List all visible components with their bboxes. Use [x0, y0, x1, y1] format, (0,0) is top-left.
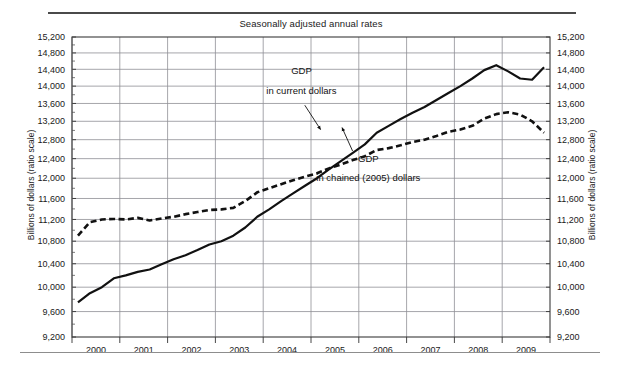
y-axis-label-right: 14,800	[557, 48, 585, 58]
gdp-chained-dollars-annotation-line2: in chained (2005) dollars	[316, 172, 420, 183]
x-axis-label: 2000	[86, 345, 106, 355]
y-axis-label-right: 10,800	[557, 236, 585, 246]
y-axis-label-left: 11,600	[38, 194, 65, 204]
y-axis-label-left: 14,800	[37, 48, 65, 58]
y-axis-label-right: 11,200	[557, 215, 584, 225]
gdp-current-dollars-annotation-arrow	[305, 105, 321, 129]
gdp-current-dollars-annotation-line1: GDP	[291, 65, 312, 76]
y-axis-label-left: 10,400	[37, 259, 65, 269]
y-axis-label-right: 10,000	[557, 282, 585, 292]
y-axis-label-left: 14,400	[37, 65, 65, 75]
y-axis-label-right: 11,600	[557, 194, 584, 204]
y-axis-label-left: 10,000	[37, 282, 65, 292]
x-axis-label: 2007	[420, 345, 440, 355]
chart-plot-area: 15,20015,20014,80014,80014,40014,40014,0…	[0, 0, 622, 371]
y-axis-label-left: 9,200	[42, 332, 65, 342]
x-axis-label: 2008	[468, 345, 488, 355]
y-axis-label-right: 12,400	[557, 154, 585, 164]
header-rule	[48, 12, 576, 14]
y-axis-label-left: 9,600	[42, 307, 65, 317]
y-axis-label-left: 13,600	[37, 99, 65, 109]
y-axis-label-right: 9,600	[557, 307, 580, 317]
gdp-chained-dollars-annotation-line1: GDP	[358, 153, 379, 164]
y-axis-label-right: 13,200	[557, 116, 585, 126]
y-axis-label-left: 14,000	[37, 81, 65, 91]
y-axis-label-right: 14,400	[557, 65, 585, 75]
y-axis-label-left: 11,200	[38, 215, 65, 225]
y-axis-label-left: 15,200	[37, 32, 65, 42]
y-axis-label-left: 12,800	[37, 135, 65, 145]
chart-title: Seasonally adjusted annual rates	[0, 18, 622, 29]
x-axis-label: 2006	[373, 345, 393, 355]
gdp-chart-figure: Seasonally adjusted annual rates Billion…	[0, 0, 622, 371]
y-axis-title-left: Billions of dollars (ratio scale)	[26, 85, 36, 285]
x-axis-label: 2009	[516, 345, 536, 355]
y-axis-label-right: 12,800	[557, 135, 585, 145]
gdp-current-dollars-annotation-line2: in current dollars	[266, 85, 336, 96]
y-axis-label-right: 14,000	[557, 81, 585, 91]
y-axis-label-left: 12,400	[37, 154, 65, 164]
y-axis-label-left: 13,200	[37, 116, 65, 126]
y-axis-label-right: 15,200	[557, 32, 585, 42]
y-axis-label-right: 10,400	[557, 259, 585, 269]
x-axis-label: 2001	[134, 345, 154, 355]
y-axis-label-left: 10,800	[37, 236, 65, 246]
y-axis-title-right: Billions of dollars (ratio scale)	[587, 85, 597, 285]
x-axis-label: 2003	[229, 345, 249, 355]
x-axis-label: 2002	[181, 345, 201, 355]
y-axis-label-right: 13,600	[557, 99, 585, 109]
x-axis-label: 2004	[277, 345, 297, 355]
y-axis-label-right: 12,000	[557, 173, 585, 183]
y-axis-label-left: 12,000	[37, 173, 65, 183]
x-axis-label: 2005	[325, 345, 345, 355]
y-axis-label-right: 9,200	[557, 332, 580, 342]
footer-rule	[20, 352, 600, 353]
